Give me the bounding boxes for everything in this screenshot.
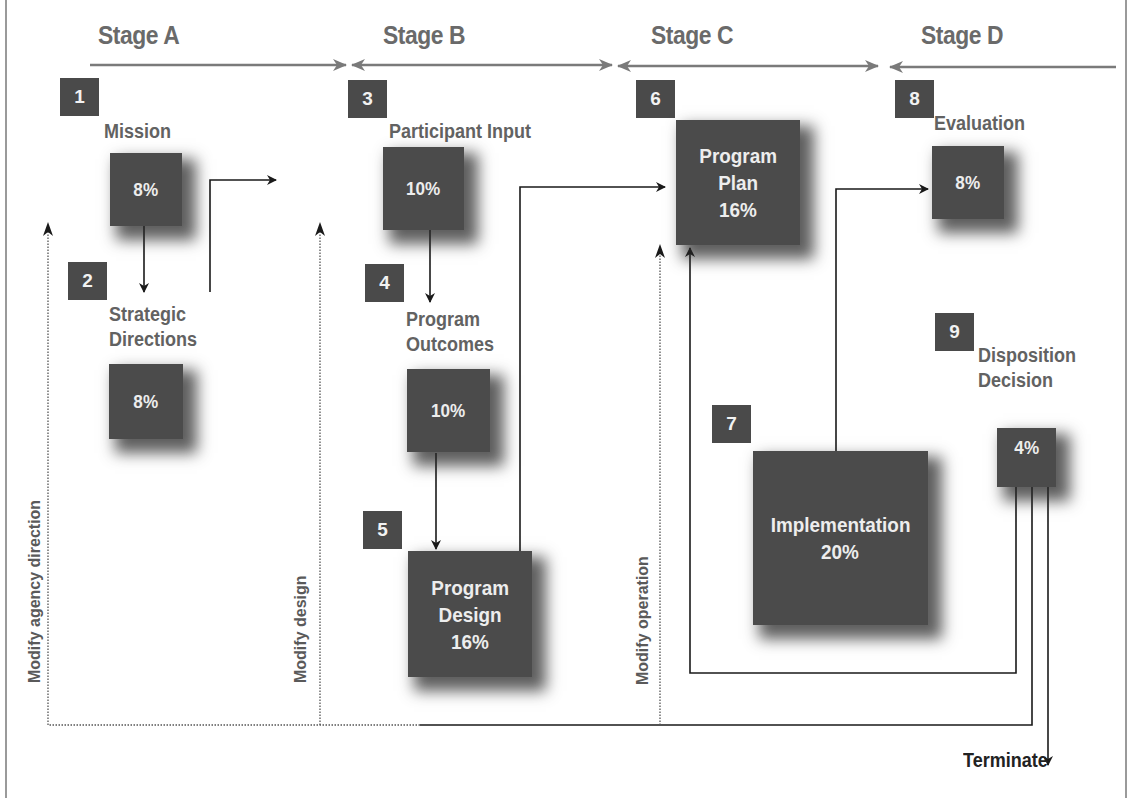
step-7-badge: 7 (712, 405, 751, 443)
step-2-title-line2: Directions (109, 327, 197, 352)
step-5-title-line1: Program (431, 574, 509, 601)
step-4-percent: 10% (431, 397, 465, 424)
step-5-percent: 16% (451, 628, 489, 655)
step-4-badge: 4 (365, 264, 404, 302)
step-7-box: Implementation 20% (753, 451, 928, 625)
step-3-box: 10% (383, 147, 464, 230)
step-3-percent: 10% (406, 175, 440, 202)
step-6-title-line1: Program (699, 142, 777, 169)
step-8-percent: 8% (956, 169, 981, 196)
step-6-box: Program Plan 16% (676, 120, 800, 245)
step-9-badge: 9 (935, 313, 974, 351)
stage-a-header: Stage A (98, 20, 179, 51)
step-9-box: 4% (997, 428, 1056, 487)
modify-agency-direction-label: Modify agency direction (26, 500, 44, 683)
step-1-badge: 1 (60, 78, 99, 116)
step-4-title-line1: Program (406, 307, 494, 332)
step-5-badge: 5 (363, 511, 402, 549)
step-4-title-line2: Outcomes (406, 332, 494, 357)
stage-c-header: Stage C (651, 20, 733, 51)
modify-operation-label: Modify operation (634, 556, 652, 685)
step-1-percent: 8% (134, 176, 159, 203)
step-1-box: 8% (110, 153, 182, 226)
step-8-box: 8% (932, 146, 1004, 219)
step-4-title: Program Outcomes (406, 307, 494, 357)
step-2-title-line1: Strategic (109, 302, 197, 327)
step-2-box: 8% (109, 364, 183, 439)
stage-d-header: Stage D (921, 20, 1003, 51)
step-6-percent: 16% (719, 196, 757, 223)
step-9-percent: 4% (1014, 434, 1039, 461)
step-3-title: Participant Input (389, 119, 531, 144)
step-2-title: Strategic Directions (109, 302, 197, 352)
step-2-percent: 8% (134, 388, 159, 415)
step-8-title: Evaluation (934, 111, 1025, 136)
terminate-label: Terminate (963, 749, 1048, 772)
modify-design-label: Modify design (292, 575, 310, 683)
step-9-title-line2: Decision (978, 368, 1076, 393)
step-9-title-line1: Disposition (978, 343, 1076, 368)
step-5-box: Program Design 16% (408, 551, 532, 677)
step-7-title: Implementation (771, 511, 911, 538)
step-4-box: 10% (407, 369, 490, 452)
step-5-title-line2: Design (438, 601, 501, 628)
step-6-badge: 6 (636, 80, 675, 118)
step-9-title: Disposition Decision (978, 343, 1076, 393)
step-7-percent: 20% (822, 538, 860, 565)
stage-b-header: Stage B (383, 20, 465, 51)
step-2-badge: 2 (68, 262, 107, 300)
step-6-title-line2: Plan (718, 169, 758, 196)
step-3-badge: 3 (348, 80, 387, 118)
step-8-badge: 8 (895, 80, 934, 118)
step-1-title: Mission (104, 119, 171, 144)
